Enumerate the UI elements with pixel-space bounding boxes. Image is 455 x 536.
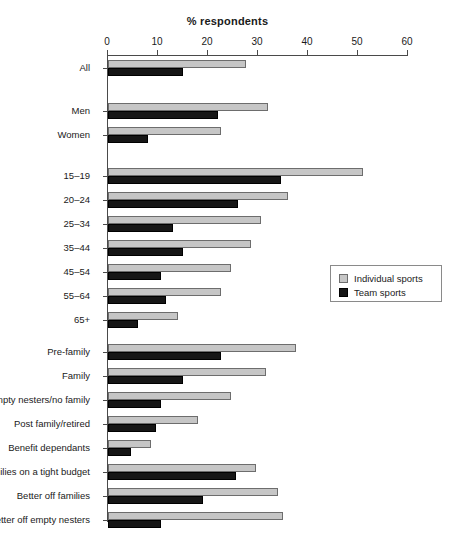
bar-team-sports <box>108 176 281 184</box>
legend-label: Team sports <box>354 287 406 298</box>
category-label: 15–19 <box>0 170 90 181</box>
bar-individual-sports <box>108 240 251 248</box>
category-label: Pre-family <box>0 346 90 357</box>
x-axis-tick-label: 30 <box>242 36 272 47</box>
bar-team-sports <box>108 68 183 76</box>
bar-individual-sports <box>108 416 198 424</box>
bar-individual-sports <box>108 103 268 111</box>
bar-team-sports <box>108 496 203 504</box>
bar-team-sports <box>108 424 156 432</box>
bar-individual-sports <box>108 192 288 200</box>
bar-team-sports <box>108 296 166 304</box>
x-axis-tick-label: 60 <box>392 36 422 47</box>
category-label: 65+ <box>0 314 90 325</box>
category-label: 35–44 <box>0 242 90 253</box>
x-axis-tick-label: 50 <box>342 36 372 47</box>
bar-individual-sports <box>108 312 178 320</box>
bar-team-sports <box>108 200 238 208</box>
x-axis-tick <box>307 50 308 56</box>
bar-individual-sports <box>108 344 296 352</box>
category-label: Families on a tight budget <box>0 466 90 477</box>
x-axis-tick-label: 0 <box>92 36 122 47</box>
category-label: 45–54 <box>0 266 90 277</box>
category-label: Men <box>0 105 90 116</box>
bar-team-sports <box>108 320 138 328</box>
x-axis-tick-label: 10 <box>142 36 172 47</box>
bar-team-sports <box>108 272 161 280</box>
bar-individual-sports <box>108 288 221 296</box>
bar-individual-sports <box>108 440 151 448</box>
bar-individual-sports <box>108 60 246 68</box>
legend-item-individual-sports: Individual sports <box>339 272 423 284</box>
category-label: Post family/retired <box>0 418 90 429</box>
category-label: 25–34 <box>0 218 90 229</box>
bar-team-sports <box>108 135 148 143</box>
category-label: 55–64 <box>0 290 90 301</box>
bar-team-sports <box>108 520 161 528</box>
x-axis-tick-label: 20 <box>192 36 222 47</box>
category-label: Better off empty nesters <box>0 514 90 525</box>
bar-individual-sports <box>108 464 256 472</box>
bar-individual-sports <box>108 512 283 520</box>
x-axis-tick <box>157 50 158 56</box>
bar-team-sports <box>108 224 173 232</box>
bar-individual-sports <box>108 368 266 376</box>
legend-swatch-icon <box>339 274 348 283</box>
x-axis-tick <box>357 50 358 56</box>
bar-individual-sports <box>108 264 231 272</box>
bar-chart: % respondents 0102030405060 AllMenWomen1… <box>0 0 455 536</box>
category-label: All <box>0 62 90 73</box>
bar-individual-sports <box>108 127 221 135</box>
bar-team-sports <box>108 472 236 480</box>
legend-item-team-sports: Team sports <box>339 286 406 298</box>
x-axis-tick <box>107 50 108 56</box>
category-label: Empty nesters/no family <box>0 394 90 405</box>
legend-label: Individual sports <box>354 273 423 284</box>
x-axis-tick <box>257 50 258 56</box>
bar-individual-sports <box>108 392 231 400</box>
bar-team-sports <box>108 352 221 360</box>
category-label: Benefit dependants <box>0 442 90 453</box>
x-axis-tick <box>207 50 208 56</box>
bar-individual-sports <box>108 216 261 224</box>
bar-team-sports <box>108 111 218 119</box>
x-axis-tick-label: 40 <box>292 36 322 47</box>
bar-team-sports <box>108 400 161 408</box>
chart-title: % respondents <box>0 15 455 27</box>
bar-individual-sports <box>108 168 363 176</box>
category-label: Women <box>0 129 90 140</box>
category-label: Family <box>0 370 90 381</box>
bar-team-sports <box>108 376 183 384</box>
legend-swatch-icon <box>339 288 348 297</box>
category-label: 20–24 <box>0 194 90 205</box>
category-label: Better off families <box>0 490 90 501</box>
chart-legend: Individual sports Team sports <box>330 265 442 302</box>
bar-team-sports <box>108 448 131 456</box>
bar-individual-sports <box>108 488 278 496</box>
bar-team-sports <box>108 248 183 256</box>
x-axis-tick <box>407 50 408 56</box>
